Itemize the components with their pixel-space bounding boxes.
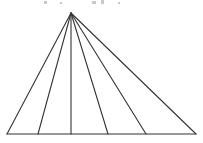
- fan-ray-group: [7, 13, 196, 134]
- figure-canvas: Triangle fan figure A large triangle sub…: [0, 0, 203, 143]
- ray-4: [71, 13, 146, 134]
- ray-left-edge: [7, 13, 71, 134]
- ray-1: [38, 13, 71, 134]
- triangle-fan-diagram: [0, 0, 203, 143]
